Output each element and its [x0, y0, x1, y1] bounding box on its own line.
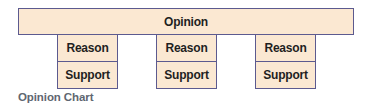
reason-label-2: Reason [165, 41, 207, 55]
opinion-box: Opinion [18, 8, 354, 35]
support-label-1: Support [65, 68, 110, 82]
reason-box-3: Reason [255, 34, 316, 62]
support-label-2: Support [164, 68, 209, 82]
reason-label-1: Reason [66, 41, 108, 55]
diagram-caption: Opinion Chart [18, 91, 93, 103]
opinion-label: Opinion [164, 15, 208, 29]
support-label-3: Support [263, 68, 308, 82]
reason-label-3: Reason [264, 41, 306, 55]
reason-box-1: Reason [57, 34, 118, 62]
support-box-2: Support [156, 61, 217, 89]
reason-box-2: Reason [156, 34, 217, 62]
support-box-3: Support [255, 61, 316, 89]
support-box-1: Support [57, 61, 118, 89]
